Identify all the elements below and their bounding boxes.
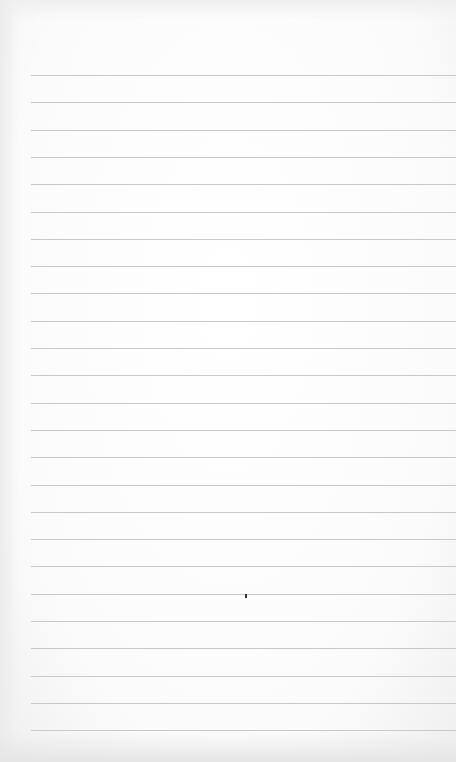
ruled-line <box>31 730 456 731</box>
ruled-line <box>31 594 456 595</box>
ruled-line <box>31 102 456 103</box>
ruled-line <box>31 348 456 349</box>
ruled-line <box>31 293 456 294</box>
paper-shadow-bottom <box>0 732 456 762</box>
ruled-line <box>31 321 456 322</box>
ruled-line <box>31 266 456 267</box>
paper-shadow-left <box>0 0 18 762</box>
paper-shadow-top <box>0 0 456 20</box>
ruled-line <box>31 403 456 404</box>
ruled-line <box>31 212 456 213</box>
ruled-line <box>31 703 456 704</box>
ruled-line <box>31 539 456 540</box>
ruled-line <box>31 648 456 649</box>
ruled-line <box>31 676 456 677</box>
lined-paper-sheet <box>0 0 456 762</box>
ruled-line <box>31 457 456 458</box>
ruled-line <box>31 239 456 240</box>
ruled-line <box>31 430 456 431</box>
ruled-line <box>31 184 456 185</box>
ruled-line <box>31 375 456 376</box>
ruled-line <box>31 75 456 76</box>
ruled-line <box>31 512 456 513</box>
ruled-line <box>31 485 456 486</box>
ink-dot <box>245 594 247 598</box>
ruled-line <box>31 566 456 567</box>
ruled-line <box>31 621 456 622</box>
ruled-line <box>31 157 456 158</box>
ruled-line <box>31 130 456 131</box>
